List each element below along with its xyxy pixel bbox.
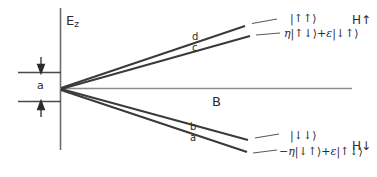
gap-arrow-upper — [38, 57, 45, 74]
state-label-bottom-2: −η|↓↑⟩+ε|↑↓⟩ — [279, 146, 363, 157]
vertical-axis-label-text: E — [66, 13, 74, 28]
ket-top-2a: |↑↓⟩ — [291, 27, 317, 40]
level-line-d — [61, 26, 245, 88]
annotation-h-up: H↑ — [352, 14, 371, 26]
gap-label: a — [37, 80, 44, 91]
level-dash-c — [256, 33, 280, 35]
level-line-c — [61, 36, 250, 89]
level-letter-d: d — [192, 32, 198, 42]
ket-bottom-2a: |↓↑⟩ — [295, 145, 321, 158]
eta-symbol-top: η — [284, 27, 291, 40]
level-dash-d — [252, 19, 277, 24]
eta-symbol-bottom: η — [288, 145, 295, 158]
state-label-top-1: |↑↑⟩ — [290, 13, 316, 24]
state-label-bottom-1: |↓↓⟩ — [290, 130, 316, 141]
plus-sign-top: + — [317, 27, 326, 40]
vertical-axis-label: Ez — [66, 14, 79, 29]
annotation-h-down: H↓ — [352, 140, 371, 152]
level-dash-b — [255, 134, 279, 138]
energy-level-diagram: Ez B a d c b a |↑↑⟩ η|↑↓⟩+ε|↓↑⟩ |↓↓⟩ −η|… — [0, 0, 377, 177]
minus-sign-bottom: − — [279, 145, 288, 158]
horizontal-axis-label: B — [212, 95, 221, 108]
ket-top-2b: |↓↑⟩ — [332, 27, 358, 40]
vertical-axis-subscript: z — [74, 19, 79, 29]
gap-arrow-lower — [38, 101, 45, 118]
level-dash-a — [253, 150, 277, 153]
level-letter-c: c — [192, 43, 198, 53]
level-letter-b: b — [190, 122, 196, 132]
level-letter-a: a — [190, 133, 196, 143]
state-label-top-2: η|↑↓⟩+ε|↓↑⟩ — [284, 28, 359, 39]
